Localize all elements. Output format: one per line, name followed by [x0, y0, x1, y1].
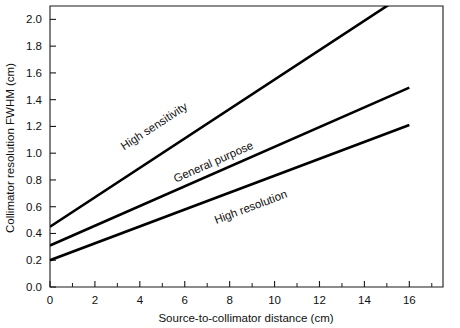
y-tick-label: 1.6 [26, 67, 42, 79]
x-tick-label: 12 [313, 294, 326, 306]
y-tick-label: 0.0 [26, 281, 42, 293]
x-tick-label: 4 [137, 294, 144, 306]
x-tick-label: 10 [268, 294, 281, 306]
x-tick-label: 6 [182, 294, 188, 306]
y-axis-title: Collimator resolution FWHM (cm) [4, 63, 16, 233]
x-tick-label: 0 [47, 294, 53, 306]
x-tick-label: 8 [226, 294, 232, 306]
y-tick-label: 0.6 [26, 201, 42, 213]
y-tick-label: 0.2 [26, 254, 42, 266]
x-tick-label: 2 [92, 294, 98, 306]
x-axis-title: Source-to-collimator distance (cm) [158, 312, 333, 324]
y-tick-label: 0.8 [26, 174, 42, 186]
x-tick-label: 14 [358, 294, 371, 306]
chart-background [0, 0, 460, 328]
y-tick-label: 0.4 [26, 227, 43, 239]
collimator-resolution-line-chart: 0.00.20.40.60.81.01.21.41.61.82.0 024681… [0, 0, 460, 328]
x-tick-label: 16 [403, 294, 416, 306]
y-tick-label: 1.2 [26, 120, 42, 132]
chart-figure: 0.00.20.40.60.81.01.21.41.61.82.0 024681… [0, 0, 460, 328]
y-tick-label: 1.0 [26, 147, 42, 159]
y-tick-label: 2.0 [26, 13, 42, 25]
y-tick-label: 1.4 [26, 94, 43, 106]
y-tick-label: 1.8 [26, 40, 42, 52]
